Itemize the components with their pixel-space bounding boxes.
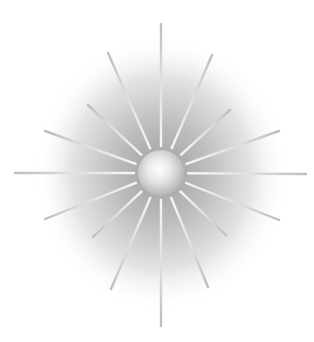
starburst-canvas: [0, 0, 314, 342]
ray-line: [188, 173, 306, 174]
central-orb: [138, 150, 184, 196]
starburst-graphic: [0, 0, 314, 342]
